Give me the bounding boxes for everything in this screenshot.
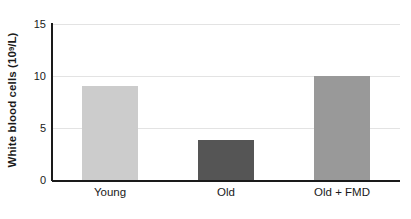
y-axis-line — [51, 23, 53, 181]
plot-area — [52, 24, 400, 180]
bar-old — [198, 140, 254, 180]
gridline-15 — [52, 24, 400, 25]
y-tick-label-5: 5 — [16, 122, 46, 134]
y-tick-label-15: 15 — [16, 18, 46, 30]
y-axis-tick-labels: 051015 — [12, 24, 46, 180]
y-tick-label-0: 0 — [16, 174, 46, 186]
x-axis-line — [52, 180, 400, 182]
bar-young — [82, 86, 138, 180]
x-tick-label-old-fmd: Old + FMD — [314, 186, 370, 198]
x-tick-label-young: Young — [94, 186, 126, 198]
x-tick-label-old: Old — [217, 186, 235, 198]
bar-old-fmd — [314, 76, 370, 180]
bar-chart: White blood cells (109/L) 051015 YoungOl… — [0, 0, 411, 219]
y-tick-label-10: 10 — [16, 70, 46, 82]
x-axis-tick-labels: YoungOldOld + FMD — [52, 186, 400, 206]
